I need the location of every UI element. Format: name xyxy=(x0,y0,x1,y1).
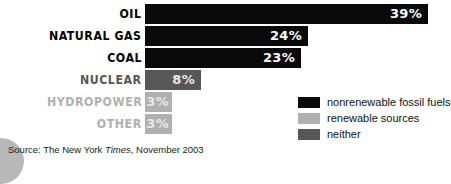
legend-item-neither: neither xyxy=(298,128,451,141)
bar-hydropower: 3% xyxy=(145,92,172,112)
source-citation: Source: The New York Times, November 200… xyxy=(8,144,204,155)
category-label-hydropower: HYDROPOWER xyxy=(47,92,142,112)
bar-wrap-other: 3% xyxy=(145,114,172,134)
bar-wrap-hydropower: 3% xyxy=(145,92,172,112)
chart-legend: nonrenewable fossil fuels renewable sour… xyxy=(298,96,451,144)
bar-row: OIL 39% xyxy=(0,4,444,24)
bar-value-other: 3% xyxy=(146,114,169,134)
bar-wrap-nuclear: 8% xyxy=(145,70,201,90)
legend-swatch-neither xyxy=(298,129,320,140)
bar-value-oil: 39% xyxy=(390,4,422,24)
legend-item-nonrenewable: nonrenewable fossil fuels xyxy=(298,96,451,109)
bar-natural-gas: 24% xyxy=(145,26,308,46)
legend-swatch-nonrenewable xyxy=(298,97,320,108)
bar-value-hydropower: 3% xyxy=(146,92,169,112)
bar-oil: 39% xyxy=(145,4,428,24)
bar-value-natural-gas: 24% xyxy=(270,26,302,46)
category-label-oil: OIL xyxy=(120,4,142,24)
bar-wrap-oil: 39% xyxy=(145,4,428,24)
category-label-other: OTHER xyxy=(97,114,142,134)
category-label-coal: COAL xyxy=(107,48,142,68)
category-label-natural-gas: NATURAL GAS xyxy=(49,26,142,46)
source-prefix: Source: The New York xyxy=(8,144,105,155)
bar-row: NATURAL GAS 24% xyxy=(0,26,444,46)
legend-label-nonrenewable: nonrenewable fossil fuels xyxy=(327,97,451,108)
legend-item-renewable: renewable sources xyxy=(298,112,451,125)
bar-value-coal: 23% xyxy=(263,48,295,68)
source-suffix: , November 2003 xyxy=(131,144,204,155)
bar-wrap-natural-gas: 24% xyxy=(145,26,308,46)
bar-row: NUCLEAR 8% xyxy=(0,70,444,90)
bar-value-nuclear: 8% xyxy=(172,70,195,90)
bar-row: COAL 23% xyxy=(0,48,444,68)
bar-other: 3% xyxy=(145,114,172,134)
source-publication: Times xyxy=(105,144,131,155)
bar-nuclear: 8% xyxy=(145,70,201,90)
legend-label-neither: neither xyxy=(327,129,361,140)
legend-swatch-renewable xyxy=(298,113,320,124)
bar-wrap-coal: 23% xyxy=(145,48,301,68)
category-label-nuclear: NUCLEAR xyxy=(80,70,142,90)
bar-coal: 23% xyxy=(145,48,301,68)
legend-label-renewable: renewable sources xyxy=(327,113,419,124)
